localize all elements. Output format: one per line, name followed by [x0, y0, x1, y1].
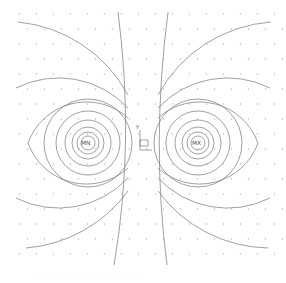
field-diagram: MN MX Y · · · · · · · · · · · · · · · · … [0, 0, 286, 283]
left-pole-arcs [16, 22, 132, 248]
axis-label-y: Y [136, 124, 139, 130]
pole-label-mx: MX [192, 139, 201, 146]
right-pole-arcs [154, 22, 271, 248]
caption: · · · · · · · · · · · · · · · · · · · · … [38, 272, 248, 277]
field-lines-canvas [0, 0, 286, 283]
pole-label-mn: MN [81, 139, 90, 146]
dot-grid [19, 13, 283, 254]
central-field-lines [114, 12, 168, 265]
axis-marker [140, 130, 152, 150]
